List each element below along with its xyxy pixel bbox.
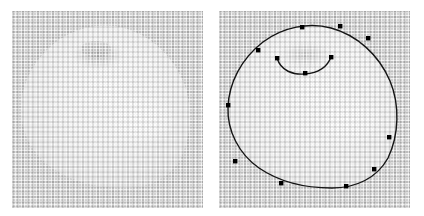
control-point[interactable] — [372, 167, 376, 171]
figure-root: Original halftone image of an apple — [0, 0, 424, 216]
control-point[interactable] — [344, 184, 348, 188]
original-image-panel[interactable]: Original halftone image of an apple — [12, 11, 203, 208]
control-point[interactable] — [338, 24, 342, 28]
contour-overlay-panel[interactable]: Same image with fitted spline contour an… — [219, 11, 410, 208]
control-point[interactable] — [387, 135, 391, 139]
control-point[interactable] — [256, 48, 260, 52]
specular-highlight — [104, 92, 176, 146]
control-point[interactable] — [233, 159, 237, 163]
control-point[interactable] — [300, 25, 304, 29]
control-point[interactable] — [279, 181, 283, 185]
stem-well-control-points[interactable] — [275, 55, 333, 75]
control-point[interactable] — [329, 55, 333, 59]
stem-well-core — [81, 41, 111, 57]
control-point[interactable] — [366, 36, 370, 40]
original-image-svg — [12, 11, 203, 208]
outer-boundary-spline[interactable] — [228, 26, 397, 188]
contour-vector-overlay[interactable] — [219, 11, 410, 208]
control-point[interactable] — [275, 56, 279, 60]
control-point[interactable] — [226, 103, 230, 107]
control-point[interactable] — [303, 71, 307, 75]
